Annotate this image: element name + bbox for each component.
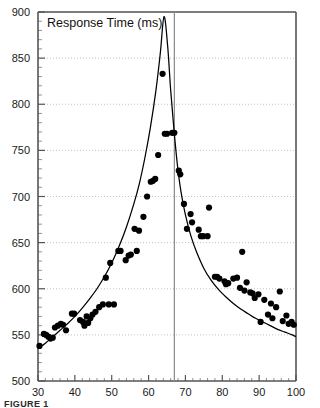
data-point (159, 71, 165, 77)
data-point (196, 227, 202, 233)
data-point (189, 219, 195, 225)
y-tick-label: 750 (12, 144, 30, 156)
data-point (244, 279, 250, 285)
data-point (181, 201, 187, 207)
data-point (280, 318, 286, 324)
data-point (134, 248, 140, 254)
data-point (187, 211, 193, 217)
data-point (140, 214, 146, 220)
data-point (128, 252, 134, 258)
x-tick-label: 30 (32, 386, 44, 398)
data-point (255, 291, 261, 297)
x-tick-label: 70 (179, 386, 191, 398)
y-tick-label: 800 (12, 98, 30, 110)
y-tick-label: 600 (12, 283, 30, 295)
data-point (155, 152, 161, 158)
data-point (177, 171, 183, 177)
y-tick-label: 550 (12, 329, 30, 341)
data-point (152, 176, 158, 182)
data-point (100, 301, 106, 307)
data-point (117, 248, 123, 254)
data-point (107, 260, 113, 266)
data-point (261, 297, 267, 303)
response-time-scatter-chart: 500550600650700750800850900 304050607080… (0, 0, 320, 408)
data-point (291, 322, 297, 328)
data-point (269, 315, 275, 321)
data-point (204, 233, 210, 239)
data-point (268, 300, 274, 306)
data-point (225, 280, 231, 286)
x-tick-label: 50 (106, 386, 118, 398)
x-tick-label: 80 (216, 386, 228, 398)
data-point (184, 226, 190, 232)
data-point (164, 131, 170, 137)
figure-caption: FIGURE 1 (4, 399, 304, 408)
chart-title: Response Time (ms) (47, 16, 162, 30)
data-point (71, 311, 77, 317)
data-point (60, 322, 66, 328)
x-tick-label: 100 (287, 386, 305, 398)
data-point (103, 275, 109, 281)
data-point (36, 343, 42, 349)
y-tick-label: 500 (12, 375, 30, 387)
data-point (277, 288, 283, 294)
data-point (283, 312, 289, 318)
data-points-group (36, 71, 297, 349)
data-point (234, 275, 240, 281)
x-axis-tick-labels: 30405060708090100 (32, 386, 305, 398)
gridlines-group (38, 12, 296, 335)
data-point (239, 249, 245, 255)
data-point (171, 130, 177, 136)
data-point (136, 228, 142, 234)
x-tick-label: 40 (69, 386, 81, 398)
data-point (111, 301, 117, 307)
data-point (144, 193, 150, 199)
data-point (63, 327, 69, 333)
y-tick-label: 900 (12, 6, 30, 18)
y-tick-label: 700 (12, 191, 30, 203)
y-axis-tick-labels: 500550600650700750800850900 (12, 6, 30, 387)
x-tick-label: 60 (142, 386, 154, 398)
data-point (241, 288, 247, 294)
data-point (50, 335, 56, 341)
y-tick-label: 850 (12, 52, 30, 64)
data-point (206, 204, 212, 210)
y-tick-label: 650 (12, 237, 30, 249)
x-tick-label: 90 (253, 386, 265, 398)
data-point (258, 319, 264, 325)
data-point (273, 304, 279, 310)
figure-container: 500550600650700750800850900 304050607080… (0, 0, 320, 408)
